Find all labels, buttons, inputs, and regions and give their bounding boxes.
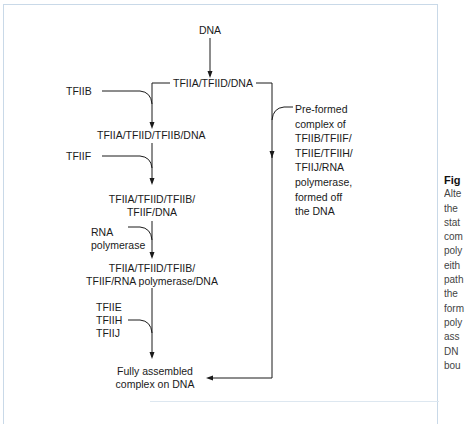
node-fully-assembled: Fully assembled complex on DNA	[112, 365, 198, 391]
preformed-line: TFIIJ/RNA	[295, 160, 353, 175]
tfiif-join-curve	[102, 156, 152, 168]
caption-title: Fig	[444, 173, 474, 187]
node-tfiif-complex: TFIIA/TFIID/TFIIB/ TFIIF/DNA	[92, 193, 212, 219]
caption-line: Alte	[444, 187, 474, 201]
preformed-line: the DNA	[295, 204, 353, 219]
input-rna-polymerase-line1: RNA	[91, 226, 145, 239]
preformed-line: polymerase,	[295, 175, 353, 190]
node-tfiia-tfiid-dna: TFIIA/TFIID/DNA	[173, 77, 253, 90]
node-tfiif-complex-line2: TFIIF/DNA	[92, 206, 212, 219]
caption-line: stat	[444, 216, 474, 230]
preformed-line: Pre-formed	[295, 102, 353, 117]
node-tfiia-tfiid-tfiib-dna: TFIIA/TFIID/TFIIB/DNA	[97, 129, 206, 142]
preformed-join-curve	[272, 107, 293, 120]
caption-line: ass	[444, 330, 474, 344]
figure-caption: Fig Alte the stat com poly eith path the…	[444, 173, 474, 373]
preformed-line: TFIIE/TFIIH/	[295, 146, 353, 161]
caption-line: poly	[444, 244, 474, 258]
branch-left-connector	[152, 83, 170, 126]
caption-line: path	[444, 273, 474, 287]
input-rna-polymerase-line2: polymerase	[91, 239, 145, 252]
preformed-line: TFIIB/TFIIF/	[295, 131, 353, 146]
node-fully-assembled-line2: complex on DNA	[112, 378, 198, 391]
input-tfiib: TFIIB	[66, 85, 92, 98]
caption-line: eith	[444, 259, 474, 273]
node-rnap-complex: TFIIA/TFIID/TFIIB/ TFIIF/RNA polymerase/…	[82, 262, 222, 288]
input-tfiie: TFIIE	[96, 301, 122, 314]
caption-line: form	[444, 302, 474, 316]
input-tfiij: TFIIJ	[96, 327, 122, 340]
node-tfiif-complex-line1: TFIIA/TFIID/TFIIB/	[92, 193, 212, 206]
input-late-factors: TFIIE TFIIH TFIIJ	[96, 301, 122, 340]
caption-line: poly	[444, 316, 474, 330]
input-rna-polymerase: RNA polymerase	[91, 226, 145, 252]
node-fully-assembled-line1: Fully assembled	[112, 365, 198, 378]
node-dna: DNA	[193, 24, 227, 37]
caption-line: DN	[444, 345, 474, 359]
branch-right-connector	[212, 83, 272, 378]
preformed-complex-label: Pre-formed complex of TFIIB/TFIIF/ TFIIE…	[295, 102, 353, 219]
node-rnap-complex-line2: TFIIF/RNA polymerase/DNA	[82, 275, 222, 288]
node-rnap-complex-line1: TFIIA/TFIID/TFIIB/	[82, 262, 222, 275]
input-tfiif: TFIIF	[66, 150, 91, 163]
caption-line: the	[444, 202, 474, 216]
caption-line: the	[444, 287, 474, 301]
input-tfiih: TFIIH	[96, 314, 122, 327]
preformed-line: complex of	[295, 117, 353, 132]
caption-line: bou	[444, 359, 474, 373]
caption-line: com	[444, 230, 474, 244]
tfiib-join-curve	[102, 91, 152, 104]
late-factors-join-curve	[128, 320, 152, 333]
preformed-line: formed off	[295, 190, 353, 205]
